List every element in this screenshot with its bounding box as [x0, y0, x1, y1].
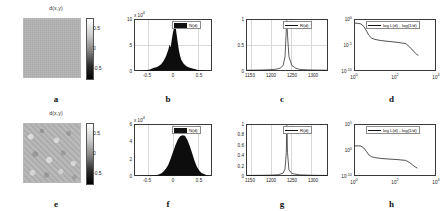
panel-g-y-tick: 1	[228, 122, 244, 127]
panel-b-y-tick: 10	[116, 17, 132, 22]
panel-h-letter: h	[336, 199, 447, 209]
panel-g-x-tick: 1200	[266, 178, 276, 183]
panel-d-y-tick: 10-5	[336, 42, 352, 49]
colorbar-tick: 0	[93, 45, 96, 51]
panel-h-y-tick: 105	[336, 121, 352, 128]
panel-e-title: d(x,y)	[0, 110, 112, 116]
panel-f-y-tick: 2	[116, 157, 132, 162]
panel-c: 1 0.5 0 1150 1200 1250 1300 R(d) c	[226, 0, 338, 105]
panel-g-y-tick: 0.8	[228, 132, 244, 137]
panel-f-y-tick: 6	[116, 122, 132, 127]
panel-c-x-tick: 1200	[266, 73, 276, 78]
panel-c-y-tick: 1	[228, 17, 244, 22]
panel-b-legend-label: N(d)	[189, 23, 198, 28]
panel-g-letter: g	[226, 199, 338, 209]
displacement-map-image	[23, 123, 81, 183]
panel-h: 105 100 10-10 100 102 104 log L(d) - log…	[336, 105, 447, 210]
figure-row-top: d(x,y) 0.5 0 -0.5 a x 104	[0, 0, 447, 105]
panel-b-x-tick: -0.5	[143, 73, 151, 78]
panel-f-legend: N(d)	[172, 126, 201, 134]
panel-h-x-tick: 102	[391, 178, 398, 185]
panel-b-exponent: x 104	[134, 11, 145, 18]
panel-h-x-tick: 100	[350, 178, 357, 185]
panel-f-x-tick: 0	[172, 178, 175, 183]
panel-h-y-tick: 100	[336, 147, 352, 154]
panel-f: x 104 6 4 2 0 -0.5 0 0.5 N(d) f	[110, 105, 226, 210]
panel-b-y-tick: 5	[116, 43, 132, 48]
panel-d-x-tick: 102	[391, 73, 398, 80]
panel-f-x-tick: -0.5	[143, 178, 151, 183]
panel-g-x-tick: 1150	[245, 178, 255, 183]
figure-container: d(x,y) 0.5 0 -0.5 a x 104	[0, 0, 447, 211]
panel-d-letter: d	[336, 94, 447, 104]
figure-row-bottom: d(x,y) 0.5 0 -0.5 e x 104	[0, 105, 447, 210]
colorbar-tick: -0.5	[93, 170, 102, 176]
panel-a-title: d(x,y)	[0, 5, 112, 11]
panel-d-legend-label: log L(d) - log(1/d)	[383, 23, 417, 28]
panel-f-y-tick: 4	[116, 139, 132, 144]
panel-g-x-tick: 1300	[308, 178, 318, 183]
displacement-map-image	[23, 18, 81, 78]
panel-e-colorbar-ticks: 0.5 0 -0.5	[93, 123, 111, 183]
colorbar-tick: 0.5	[93, 130, 100, 136]
panel-d-x-tick: 100	[350, 73, 357, 80]
colorbar-tick: 0.5	[93, 25, 100, 31]
panel-g-legend-label: R(d)	[300, 128, 309, 133]
panel-g-y-tick: 0.4	[228, 153, 244, 158]
panel-c-y-tick: 0.5	[228, 43, 244, 48]
panel-b-x-tick: 0	[172, 73, 175, 78]
panel-h-legend-label: log L(d) - log(1/d)	[383, 128, 417, 133]
panel-b-y-tick: 0	[116, 69, 132, 74]
panel-b-x-tick: 0.5	[196, 73, 202, 78]
panel-c-x-tick: 1300	[308, 73, 318, 78]
legend-line-icon	[368, 130, 381, 131]
panel-a-colorbar-ticks: 0.5 0 -0.5	[93, 18, 111, 78]
panel-a-image	[23, 18, 81, 78]
legend-swatch-icon	[174, 23, 187, 28]
panel-e-image	[23, 123, 81, 183]
colorbar-tick: 0	[93, 150, 96, 156]
panel-g-x-tick: 1250	[287, 178, 297, 183]
panel-c-x-tick: 1150	[245, 73, 255, 78]
panel-g: 1 0.8 0.6 0.4 0.2 0 1150 1200 1250 1300 …	[226, 105, 338, 210]
panel-c-legend: R(d)	[283, 21, 312, 29]
panel-h-legend: log L(d) - log(1/d)	[366, 126, 420, 134]
panel-c-x-tick: 1250	[287, 73, 297, 78]
legend-swatch-icon	[174, 128, 187, 133]
panel-g-y-tick: 0	[228, 174, 244, 179]
panel-b-legend: N(d)	[172, 21, 201, 29]
panel-d-x-tick: 104	[432, 73, 439, 80]
panel-f-exponent: x 104	[134, 116, 145, 123]
panel-g-legend: R(d)	[283, 126, 312, 134]
legend-line-icon	[285, 25, 298, 26]
panel-d-legend: log L(d) - log(1/d)	[366, 21, 420, 29]
panel-g-y-tick: 0.6	[228, 143, 244, 148]
panel-f-y-tick: 0	[116, 174, 132, 179]
panel-e-letter: e	[0, 199, 112, 209]
panel-b-letter: b	[110, 94, 226, 104]
legend-line-icon	[368, 25, 381, 26]
panel-h-x-tick: 104	[432, 178, 439, 185]
panel-g-y-tick: 0.2	[228, 164, 244, 169]
panel-c-legend-label: R(d)	[300, 23, 309, 28]
panel-f-letter: f	[110, 199, 226, 209]
panel-e: d(x,y) 0.5 0 -0.5 e	[0, 105, 112, 210]
panel-d: 100 10-5 10-10 100 102 104 log L(d) - lo…	[336, 0, 447, 105]
panel-f-x-tick: 0.5	[196, 178, 202, 183]
panel-c-y-tick: 0	[228, 69, 244, 74]
panel-a: d(x,y) 0.5 0 -0.5 a	[0, 0, 112, 105]
panel-c-letter: c	[226, 94, 338, 104]
legend-line-icon	[285, 130, 298, 131]
panel-f-legend-label: N(d)	[189, 128, 198, 133]
colorbar-tick: -0.5	[93, 65, 102, 71]
panel-a-letter: a	[0, 94, 112, 104]
panel-d-y-tick: 100	[336, 16, 352, 23]
panel-b: x 104 10 5 0 -0.5 0 0.5 N(d) b	[110, 0, 226, 105]
